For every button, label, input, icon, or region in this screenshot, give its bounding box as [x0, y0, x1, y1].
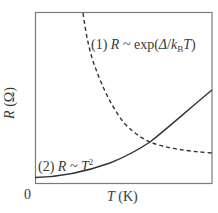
x-axis-label: T (K)	[107, 190, 138, 204]
y-axis-variable: R	[2, 110, 17, 119]
curve1-close: )	[191, 37, 196, 52]
origin-label: 0	[24, 188, 31, 202]
curve1-index: (1)	[91, 37, 111, 52]
x-axis-variable: T	[107, 189, 115, 204]
curve1-delta: Δ	[159, 37, 167, 52]
curve1-annotation: (1) R ~ exp(Δ/kBT)	[91, 38, 196, 56]
y-axis-label: R (Ω)	[3, 87, 17, 119]
curve2-annotation: (2) R ~ T2	[38, 155, 93, 174]
curve2-index: (2)	[38, 159, 58, 174]
curve-exponential-dashed	[83, 13, 212, 153]
curve2-exponent: 2	[89, 157, 94, 167]
chart-canvas	[0, 0, 218, 213]
x-axis-unit: (K)	[115, 189, 138, 204]
curve2-T: T	[81, 159, 89, 174]
curve2-tilde: ~	[66, 159, 81, 174]
curve1-exp: ~ exp(	[119, 37, 158, 52]
curve1-T: T	[183, 37, 191, 52]
y-axis-unit: (Ω)	[2, 87, 17, 110]
